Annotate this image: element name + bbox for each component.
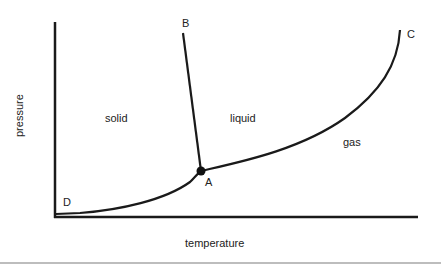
point-label-c: C bbox=[407, 28, 415, 40]
region-label-gas: gas bbox=[343, 136, 361, 148]
sublimation-curve bbox=[56, 171, 201, 214]
point-label-d: D bbox=[63, 196, 71, 208]
vaporization-curve bbox=[201, 30, 400, 171]
phase-diagram: A B C D solid liquid gas temperature pre… bbox=[0, 0, 441, 265]
point-label-a: A bbox=[205, 176, 213, 188]
point-label-b: B bbox=[182, 17, 189, 29]
y-axis-label: pressure bbox=[13, 94, 25, 137]
melting-line bbox=[183, 33, 201, 171]
x-axis-label: temperature bbox=[185, 237, 244, 249]
region-label-liquid: liquid bbox=[230, 112, 256, 124]
triple-point-marker bbox=[197, 167, 206, 176]
bottom-divider bbox=[0, 262, 441, 264]
region-label-solid: solid bbox=[105, 112, 128, 124]
